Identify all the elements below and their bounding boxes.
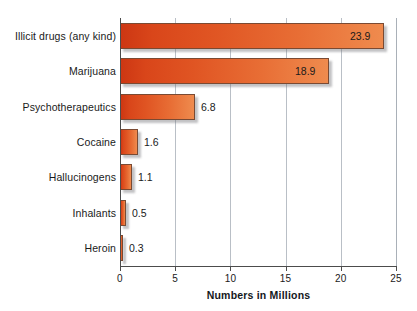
bar-container[interactable] — [120, 94, 195, 120]
bar[interactable] — [120, 164, 132, 190]
bar-container[interactable] — [120, 23, 384, 49]
bar-row: Hallucinogens1.1 — [0, 164, 417, 190]
bar[interactable] — [120, 23, 384, 49]
x-tick-label-15: 15 — [280, 273, 292, 284]
category-label: Hallucinogens — [49, 164, 116, 190]
x-tick-label-0: 0 — [117, 273, 123, 284]
bar-value-label: 0.3 — [129, 235, 144, 261]
bar-row: Cocaine1.6 — [0, 129, 417, 155]
x-tick-label-5: 5 — [172, 273, 178, 284]
bar-container[interactable] — [120, 164, 132, 190]
x-axis-line — [120, 266, 397, 267]
bar-value-label: 18.9 — [295, 58, 315, 84]
bar[interactable] — [120, 129, 138, 155]
bar-value-label: 1.6 — [144, 129, 159, 155]
bar-row: Inhalants0.5 — [0, 200, 417, 226]
bar[interactable] — [120, 94, 195, 120]
bar-container[interactable] — [120, 129, 138, 155]
bar-value-label: 0.5 — [132, 200, 147, 226]
bar-row: Heroin0.3 — [0, 235, 417, 261]
x-tick-label-25: 25 — [390, 273, 402, 284]
bar-row: Illicit drugs (any kind)23.9 — [0, 23, 417, 49]
category-label: Illicit drugs (any kind) — [15, 23, 116, 49]
category-label: Cocaine — [77, 129, 116, 155]
bar-row: Marijuana18.9 — [0, 58, 417, 84]
x-tick-label-20: 20 — [335, 273, 347, 284]
bar-chart-figure: Illicit drugs (any kind)23.9Marijuana18.… — [0, 0, 417, 311]
x-tick-label-10: 10 — [225, 273, 237, 284]
category-label: Inhalants — [72, 200, 116, 226]
bar-value-label: 6.8 — [201, 94, 216, 120]
category-label: Marijuana — [69, 58, 116, 84]
y-axis-line — [120, 18, 121, 267]
category-label: Heroin — [84, 235, 116, 261]
bar-value-label: 23.9 — [350, 23, 370, 49]
category-label: Psychotherapeutics — [23, 94, 116, 120]
bar-value-label: 1.1 — [138, 164, 153, 190]
x-axis-title: Numbers in Millions — [120, 289, 397, 301]
bar-row: Psychotherapeutics6.8 — [0, 94, 417, 120]
